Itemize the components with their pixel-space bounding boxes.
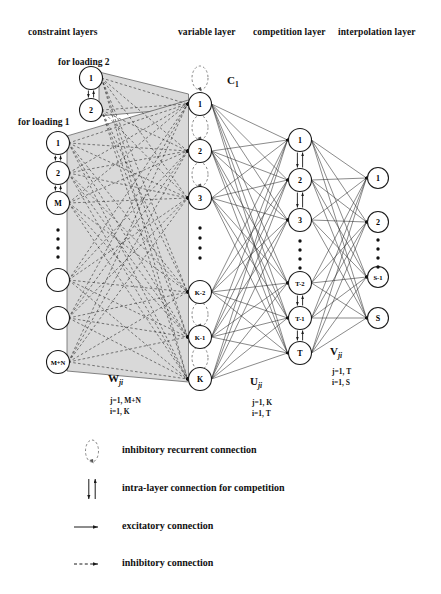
group-label-loading1: for loading 1 (18, 117, 70, 127)
node-label: S (376, 314, 381, 323)
node-label: 1 (89, 74, 93, 83)
node-label: T (297, 349, 303, 358)
legend-label-inhibitory: inhibitory connection (122, 557, 213, 568)
header-variable: variable layer (178, 27, 236, 37)
node-label: 2 (376, 218, 380, 227)
node-label: 3 (298, 216, 302, 225)
weight-index-U: i=1, T (252, 409, 271, 418)
network-diagram-canvas: 1212MM+N123K-2K-1K123T-2T-1T12S-1S (0, 0, 441, 594)
recurrent-label: C1 (227, 74, 239, 89)
ellipsis-dot (198, 246, 201, 249)
ellipsis-dot (298, 266, 301, 269)
node (47, 269, 70, 292)
node-label: 1 (376, 174, 380, 183)
header-competition: competition layer (253, 27, 326, 37)
weight-index-V: i=1, S (332, 378, 350, 387)
node-label: 1 (56, 139, 60, 148)
ellipsis-dot (56, 237, 59, 240)
weight-label-V: Vji (330, 345, 342, 360)
node-label: K (197, 375, 204, 384)
ellipsis-dot (376, 256, 379, 259)
weight-index-W: i=1, K (110, 407, 130, 416)
node-label: 2 (198, 147, 202, 156)
weight-label-U: Uji (250, 375, 262, 390)
weight-index-W: j=1, M+N (110, 396, 141, 405)
node-label: 2 (56, 169, 60, 178)
node-label: 3 (198, 194, 202, 203)
node-label: 1 (298, 136, 302, 145)
ellipsis-dot (376, 238, 379, 241)
ellipsis-dot (198, 256, 201, 259)
node-label: M+N (51, 359, 66, 366)
node-label: T-1 (295, 315, 304, 322)
legend-icons-group (74, 440, 99, 564)
legend-label-intra-layer: intra-layer connection for competition (122, 482, 285, 493)
ellipsis-dot (56, 246, 59, 249)
weight-index-V: j=1, T (332, 367, 351, 376)
header-constraint: constraint layers (28, 27, 98, 37)
node-label: K-2 (195, 289, 206, 296)
node-label: S-1 (373, 274, 382, 281)
ellipsis-dot (298, 248, 301, 251)
competition-to-interpolation-connections (312, 140, 367, 353)
node-label: T-2 (295, 280, 305, 287)
ellipsis-dot (298, 257, 301, 260)
variable-to-competition-connections (212, 104, 288, 379)
ellipsis-dot (56, 255, 59, 258)
header-interpolation: interpolation layer (338, 27, 416, 37)
node-label: K-1 (195, 334, 206, 341)
node (47, 307, 70, 330)
node-label: 2 (89, 106, 93, 115)
ellipsis-dot (298, 239, 301, 242)
ellipsis-dot (198, 226, 201, 229)
ellipsis-dot (198, 236, 201, 239)
weight-index-U: j=1, K (252, 398, 272, 407)
legend-label-inhibitory-recurrent: inhibitory recurrent connection (122, 444, 257, 455)
node-label: 1 (198, 100, 202, 109)
node-label: 2 (298, 176, 302, 185)
node-label: M (54, 199, 62, 208)
group-label-loading2: for loading 2 (58, 57, 110, 67)
weight-label-W: Wji (108, 372, 123, 387)
legend-icon-dashed-loop (86, 440, 99, 462)
ellipsis-dot (376, 247, 379, 250)
ellipsis-dot (56, 228, 59, 231)
legend-label-excitatory: excitatory connection (122, 520, 213, 531)
ellipsis-dot (376, 265, 379, 268)
